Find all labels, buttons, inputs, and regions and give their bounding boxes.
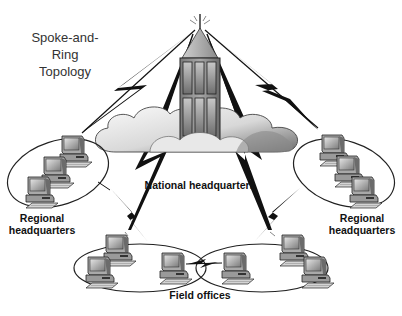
title-line-2: Topology bbox=[20, 63, 110, 80]
diagram-title: Spoke-and-Ring Topology bbox=[20, 29, 110, 80]
link-regional-left-field bbox=[110, 188, 148, 242]
label-field-offices: Field offices bbox=[160, 289, 240, 301]
label-regional-left: Regional headquarters bbox=[4, 212, 80, 236]
label-regional-right: Regional headquarters bbox=[322, 212, 402, 236]
label-regional-left-line2: headquarters bbox=[4, 224, 80, 236]
label-regional-right-line2: headquarters bbox=[322, 224, 402, 236]
label-regional-right-line1: Regional bbox=[322, 212, 402, 224]
link-regional-right-field bbox=[254, 188, 300, 242]
office-tower-icon bbox=[180, 14, 220, 142]
label-regional-left-line1: Regional bbox=[4, 212, 80, 224]
title-line-1: Spoke-and-Ring bbox=[20, 29, 110, 63]
label-national-headquarters: National headquarters bbox=[140, 179, 260, 191]
